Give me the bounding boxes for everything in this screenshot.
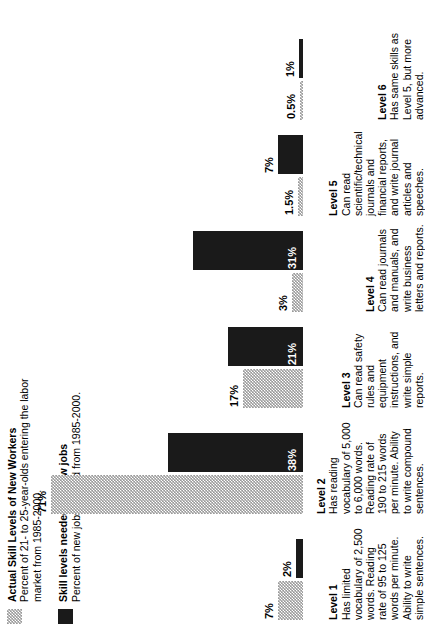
bar-actual-level-2 — [51, 475, 303, 514]
level-caption-3: Level 3Can read safety rules and equipme… — [340, 316, 425, 408]
level-description-6: Has same skills as Level 5, but more adv… — [388, 33, 424, 120]
bar-needed-level-5 — [278, 135, 303, 174]
level-name-5: Level 5 — [327, 124, 339, 216]
bar-needed-level-6 — [299, 39, 303, 78]
value-label-actual-level-4: 3% — [277, 295, 289, 311]
value-label-actual-level-3: 17% — [228, 385, 240, 407]
level-caption-1: Level 1Has limited vocabulary of 2,500 w… — [327, 528, 425, 620]
value-label-actual-level-5: 1.5% — [283, 190, 295, 215]
bar-actual-level-6 — [300, 81, 303, 120]
level-name-4: Level 4 — [364, 220, 376, 312]
value-label-needed-level-2: 38% — [286, 449, 298, 471]
level-description-2: Has reading vocabulary of 5,000 to 6,000… — [327, 422, 424, 514]
level-caption-6: Level 6Has same skills as Level 5, but m… — [376, 28, 425, 120]
level-name-2: Level 2 — [315, 422, 327, 514]
level-name-1: Level 1 — [327, 528, 339, 620]
level-name-3: Level 3 — [340, 316, 352, 408]
value-label-actual-level-2: 71% — [36, 491, 48, 513]
bar-actual-level-1 — [278, 581, 303, 620]
bar-plot-area: 7%2%Level 1Has limited vocabulary of 2,5… — [0, 0, 425, 632]
chart-canvas: Actual Skill Levels of New Workers Perce… — [0, 0, 425, 632]
value-label-needed-level-4: 31% — [286, 247, 298, 269]
level-caption-5: Level 5Can read scientific/technical jou… — [327, 124, 425, 216]
level-caption-4: Level 4Can read journals and manuals, an… — [364, 220, 425, 312]
bar-actual-level-5 — [298, 177, 303, 216]
level-description-4: Can read journals and manuals, and write… — [376, 224, 425, 312]
bar-needed-level-1 — [296, 539, 303, 578]
bar-actual-level-4 — [292, 273, 303, 312]
value-label-needed-level-5: 7% — [263, 157, 275, 173]
level-description-5: Can read scientific/technical journals a… — [340, 131, 425, 216]
value-label-needed-level-3: 21% — [286, 343, 298, 365]
level-caption-2: Level 2Has reading vocabulary of 5,000 t… — [315, 422, 425, 514]
value-label-needed-level-1: 2% — [281, 561, 293, 577]
level-name-6: Level 6 — [376, 28, 388, 120]
value-label-actual-level-6: 0.5% — [285, 94, 297, 119]
bar-needed-level-2 — [168, 433, 303, 472]
value-label-needed-level-6: 1% — [284, 61, 296, 77]
level-description-3: Can read safety rules and equipment inst… — [352, 332, 425, 408]
value-label-actual-level-1: 7% — [263, 603, 275, 619]
level-description-1: Has limited vocabulary of 2,500 words. R… — [340, 528, 425, 620]
bar-actual-level-3 — [243, 369, 303, 408]
